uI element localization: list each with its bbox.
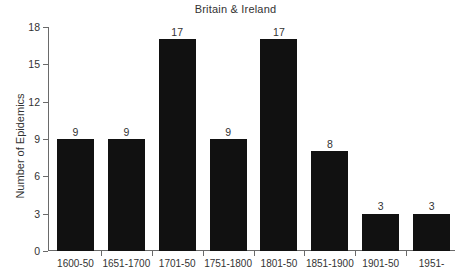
x-tick-label: 1600-50 (57, 258, 94, 269)
y-tick-label: 3 (34, 208, 40, 220)
y-tick-mark (43, 251, 48, 252)
bar[interactable] (108, 139, 145, 251)
y-tick-mark (43, 214, 48, 215)
x-tick-mark (355, 251, 356, 256)
bar[interactable] (362, 214, 399, 251)
y-tick-mark (43, 139, 48, 140)
y-tick-mark (43, 176, 48, 177)
bar-column[interactable]: 91600-50 (57, 139, 94, 251)
y-tick-label: 6 (34, 170, 40, 182)
x-tick-label: 1801-50 (261, 258, 298, 269)
bar-value-label: 17 (171, 27, 183, 38)
bar[interactable] (159, 39, 196, 251)
y-tick-label: 15 (28, 58, 40, 70)
bar-value-label: 9 (123, 127, 129, 138)
x-tick-label: 1851-1900 (306, 258, 354, 269)
y-tick-mark (43, 64, 48, 65)
y-tick-mark (43, 102, 48, 103)
bar[interactable] (260, 39, 297, 251)
bar[interactable] (413, 214, 450, 251)
x-tick-label: 1951- (419, 258, 445, 269)
x-tick-label: 1901-50 (362, 258, 399, 269)
x-tick-mark (254, 251, 255, 256)
bar-column[interactable]: 31901-50 (362, 214, 399, 251)
y-tick-label: 0 (34, 245, 40, 257)
bar-value-label: 3 (429, 201, 435, 212)
chart-title: Britain & Ireland (0, 3, 471, 15)
x-tick-label: 1751-1800 (204, 258, 252, 269)
x-tick-mark (152, 251, 153, 256)
bar[interactable] (57, 139, 94, 251)
bar-column[interactable]: 31951- (413, 214, 450, 251)
y-axis-line (48, 27, 49, 251)
x-tick-label: 1701-50 (159, 258, 196, 269)
y-tick-label: 18 (28, 21, 40, 33)
bar-value-label: 17 (273, 27, 285, 38)
bar-column[interactable]: 81851-1900 (311, 151, 348, 251)
bar[interactable] (210, 139, 247, 251)
x-tick-mark (101, 251, 102, 256)
bar-column[interactable]: 91751-1800 (210, 139, 247, 251)
bar-value-label: 8 (327, 139, 333, 150)
y-tick-mark (43, 27, 48, 28)
x-tick-mark (406, 251, 407, 256)
bar-value-label: 9 (225, 127, 231, 138)
bar-column[interactable]: 171701-50 (159, 39, 196, 251)
x-tick-label: 1651-1700 (102, 258, 150, 269)
y-tick-label: 12 (28, 96, 40, 108)
bar-column[interactable]: 91651-1700 (108, 139, 145, 251)
x-tick-mark (203, 251, 204, 256)
bar-value-label: 9 (73, 127, 79, 138)
bar-chart: Britain & Ireland Number of Epidemics 03… (0, 0, 471, 279)
x-tick-mark (304, 251, 305, 256)
y-axis-label: Number of Epidemics (14, 66, 26, 226)
y-tick-label: 9 (34, 133, 40, 145)
bar-column[interactable]: 171801-50 (260, 39, 297, 251)
bar[interactable] (311, 151, 348, 251)
plot-area: 0369121518 91600-5091651-1700171701-5091… (48, 27, 455, 251)
bar-value-label: 3 (378, 201, 384, 212)
